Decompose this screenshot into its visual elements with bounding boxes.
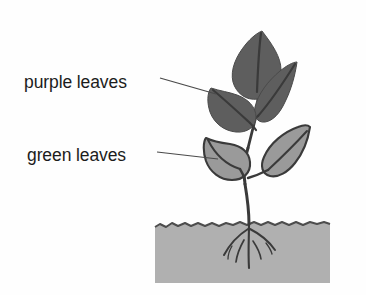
- diagram-canvas: purple leaves green leaves: [0, 0, 366, 295]
- leader-line-purple-leaves: [160, 78, 216, 94]
- stem-lower: [245, 184, 249, 224]
- label-purple-leaves: purple leaves: [24, 72, 127, 92]
- green-leaf-right: [248, 126, 310, 179]
- soil-body: [155, 222, 330, 283]
- label-green-leaves: green leaves: [27, 145, 126, 165]
- soil-block: [155, 222, 330, 283]
- plant-diagram-figure: purple leaves green leaves: [0, 0, 366, 295]
- green-leaf-left: [204, 138, 250, 181]
